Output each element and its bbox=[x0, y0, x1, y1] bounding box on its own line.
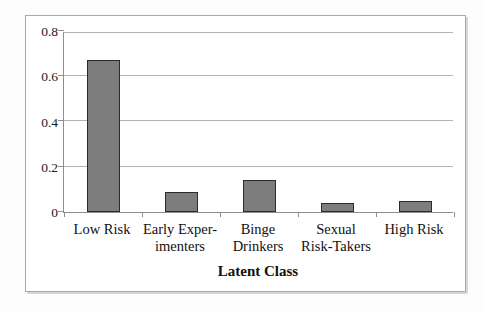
x-axis-tick bbox=[376, 212, 377, 217]
x-axis-category-labels: Low RiskEarly Exper- imentersBinge Drink… bbox=[63, 221, 453, 255]
x-axis-tick bbox=[64, 212, 65, 217]
category-label: Early Exper- imenters bbox=[141, 221, 219, 255]
y-tick-label: 0.2 bbox=[26, 160, 58, 176]
x-axis-title: Latent Class bbox=[63, 263, 453, 280]
category-label: Low Risk bbox=[63, 221, 141, 255]
category-label: Sexual Risk-Takers bbox=[297, 221, 375, 255]
y-tick-label: 0.6 bbox=[26, 69, 58, 85]
bar bbox=[321, 203, 354, 212]
gridline bbox=[64, 166, 453, 167]
chart-frame: Low RiskEarly Exper- imentersBinge Drink… bbox=[25, 15, 466, 292]
bar bbox=[165, 192, 198, 212]
bar bbox=[243, 180, 276, 212]
bar bbox=[87, 60, 120, 212]
category-label: Binge Drinkers bbox=[219, 221, 297, 255]
gridline bbox=[64, 120, 453, 121]
y-axis-tick bbox=[58, 75, 64, 76]
y-tick-label: 0.8 bbox=[26, 24, 58, 40]
x-axis-tick bbox=[298, 212, 299, 217]
y-axis-tick bbox=[58, 120, 64, 121]
y-tick-label: 0.4 bbox=[26, 115, 58, 131]
plot-area bbox=[63, 32, 453, 213]
page: Low RiskEarly Exper- imentersBinge Drink… bbox=[0, 0, 484, 311]
y-axis-tick bbox=[58, 30, 64, 31]
x-axis-tick bbox=[454, 212, 455, 217]
gridline bbox=[64, 75, 453, 76]
x-axis-tick bbox=[142, 212, 143, 217]
y-axis-tick bbox=[58, 166, 64, 167]
x-axis-tick bbox=[220, 212, 221, 217]
bar bbox=[399, 201, 432, 212]
y-tick-label: 0 bbox=[26, 205, 58, 221]
category-label: High Risk bbox=[375, 221, 453, 255]
